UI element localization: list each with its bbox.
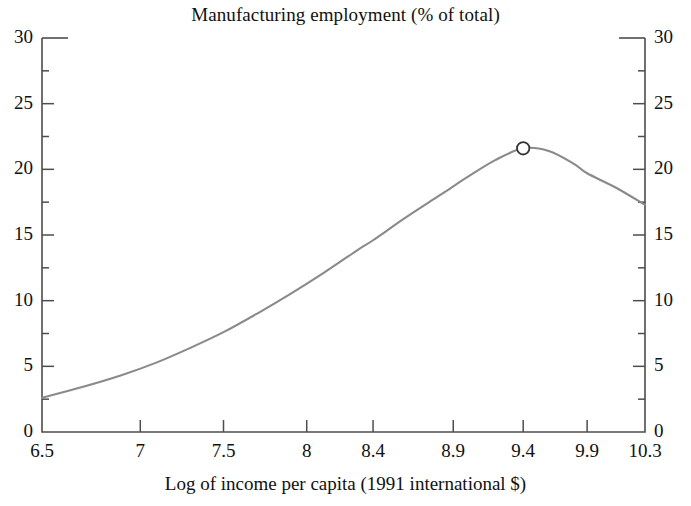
peak-marker — [517, 142, 529, 154]
x-axis-tick-label: 7.5 — [184, 440, 264, 462]
y-axis-right-tick-label: 25 — [654, 92, 691, 114]
y-axis-left-tick-label: 5 — [0, 354, 33, 376]
x-axis-tick-label: 6.5 — [2, 440, 82, 462]
y-axis-left-tick-label: 10 — [0, 289, 33, 311]
y-axis-left-tick-label: 0 — [0, 420, 33, 442]
x-axis-title: Log of income per capita (1991 internati… — [0, 473, 691, 495]
data-markers — [517, 142, 529, 154]
x-axis-tick-label: 7 — [100, 440, 180, 462]
y-axis-right-tick-label: 15 — [654, 223, 691, 245]
y-axis-right-tick-label: 10 — [654, 289, 691, 311]
y-axis-left-tick-label: 30 — [0, 26, 33, 48]
y-axis-right-tick-label: 5 — [654, 354, 691, 376]
x-axis-tick-label: 8.4 — [333, 440, 413, 462]
x-axis-tick-label: 10.3 — [605, 440, 685, 462]
y-axis-right-tick-label: 20 — [654, 157, 691, 179]
y-axis-left-tick-label: 20 — [0, 157, 33, 179]
chart-figure: Manufacturing employment (% of total) 30… — [0, 0, 691, 506]
y-axis-left-tick-label: 25 — [0, 92, 33, 114]
plot-area — [0, 0, 691, 506]
axis-frame — [42, 38, 645, 432]
axis-ticks — [42, 71, 645, 432]
series-line-0 — [42, 148, 645, 398]
data-series — [42, 148, 645, 398]
y-axis-left-tick-label: 15 — [0, 223, 33, 245]
y-axis-right-tick-label: 30 — [654, 26, 691, 48]
x-axis-tick-label: 8.9 — [413, 440, 493, 462]
y-axis-right-tick-label: 0 — [654, 420, 691, 442]
